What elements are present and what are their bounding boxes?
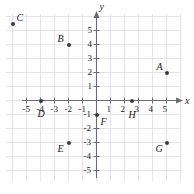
point-c-label: C bbox=[17, 13, 24, 23]
point-b-dot[interactable] bbox=[67, 43, 71, 47]
grid-and-axes bbox=[0, 0, 194, 194]
point-g-label: G bbox=[156, 144, 163, 154]
y-tick-label: -2 bbox=[84, 124, 92, 133]
point-g-dot[interactable] bbox=[165, 141, 169, 145]
point-c-dot[interactable] bbox=[11, 22, 15, 26]
point-h-label: H bbox=[129, 110, 136, 120]
coordinate-plane-figure: -5-4-3-2-11234554321-1-2-3-4-5 x y ABCDE… bbox=[0, 0, 194, 194]
y-tick-label: 3 bbox=[88, 54, 93, 63]
y-tick-label: 2 bbox=[88, 68, 93, 77]
y-axis-label: y bbox=[100, 2, 104, 12]
y-tick-label: -5 bbox=[84, 166, 92, 175]
y-tick-label: -4 bbox=[84, 152, 92, 161]
x-tick-label: 2 bbox=[121, 105, 126, 114]
x-tick-label: 4 bbox=[149, 105, 154, 114]
y-tick-label: -1 bbox=[84, 110, 92, 119]
x-tick-label: 1 bbox=[107, 105, 112, 114]
y-tick-label: -3 bbox=[84, 138, 92, 147]
point-d-dot[interactable] bbox=[39, 99, 43, 103]
point-f-dot[interactable] bbox=[95, 113, 99, 117]
y-tick-label: 1 bbox=[88, 82, 93, 91]
y-tick-label: 4 bbox=[88, 40, 93, 49]
point-e-dot[interactable] bbox=[67, 141, 71, 145]
point-h-dot[interactable] bbox=[130, 99, 134, 103]
x-tick-label: -5 bbox=[23, 105, 31, 114]
y-tick-label: 5 bbox=[88, 26, 93, 35]
x-tick-label: 5 bbox=[163, 105, 168, 114]
x-axis-label: x bbox=[185, 96, 189, 106]
point-b-label: B bbox=[58, 34, 64, 44]
x-tick-label: -2 bbox=[65, 105, 73, 114]
point-f-label: F bbox=[101, 117, 107, 127]
point-d-label: D bbox=[38, 109, 45, 119]
x-tick-label: -3 bbox=[51, 105, 59, 114]
point-a-dot[interactable] bbox=[165, 71, 169, 75]
point-a-label: A bbox=[157, 62, 163, 72]
point-e-label: E bbox=[58, 144, 64, 154]
